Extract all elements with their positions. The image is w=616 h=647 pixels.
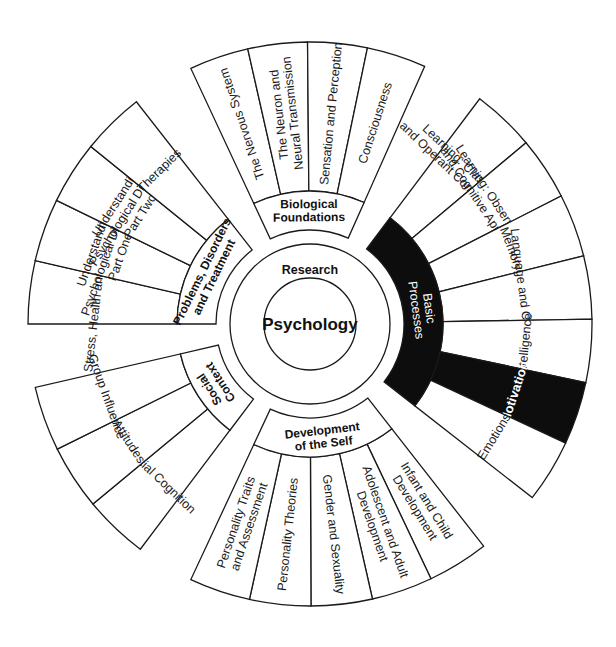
psychology-topic-wheel: The Nervous SystemThe Neuron andNeural T… bbox=[0, 0, 616, 647]
psychology-label: Psychology bbox=[262, 315, 358, 334]
research-label: Research bbox=[282, 263, 338, 277]
svg-text:BiologicalFoundations: BiologicalFoundations bbox=[273, 197, 346, 225]
label-line: Foundations bbox=[273, 210, 345, 225]
category-band-biological-foundations: BiologicalFoundations bbox=[254, 191, 364, 239]
